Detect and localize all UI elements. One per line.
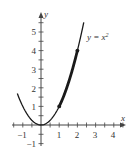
chart-svg: −1 1 2 3 4 −1 1 2 3 4 5 x y y = x2 bbox=[0, 0, 130, 162]
point-1-1 bbox=[57, 105, 61, 109]
x-tick-label: −1 bbox=[17, 130, 27, 140]
x-tick-label: 2 bbox=[75, 130, 80, 140]
y-tick-label: 3 bbox=[32, 65, 37, 75]
y-tick-label: 2 bbox=[32, 84, 37, 94]
y-tick-labels: −1 1 2 3 4 5 bbox=[26, 27, 36, 149]
point-2-4 bbox=[76, 49, 80, 53]
parabola-curve bbox=[17, 22, 83, 125]
highlighted-segment bbox=[59, 51, 77, 107]
parabola-figure: −1 1 2 3 4 −1 1 2 3 4 5 x y y = x2 bbox=[0, 0, 130, 162]
y-tick-label: 5 bbox=[32, 27, 37, 37]
y-tick-label: 1 bbox=[32, 102, 37, 112]
x-tick-label: 1 bbox=[57, 130, 62, 140]
y-tick-label: 4 bbox=[32, 46, 37, 56]
y-axis-arrow-icon bbox=[39, 12, 44, 18]
x-axis-label: x bbox=[120, 113, 125, 123]
y-tick-label: −1 bbox=[26, 139, 36, 149]
curve-label: y = x2 bbox=[86, 32, 109, 42]
x-tick-label: 3 bbox=[93, 130, 98, 140]
y-axis-label: y bbox=[43, 9, 48, 19]
x-tick-label: 4 bbox=[111, 130, 116, 140]
